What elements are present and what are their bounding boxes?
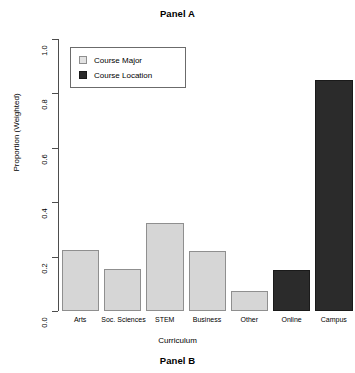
panel-b-caption: Panel B [0,355,355,366]
x-axis-tick-label: Campus [313,316,355,323]
y-axis-tick-label: 0.2 [40,255,49,281]
legend-swatch-icon [79,56,87,64]
y-axis-tick-label: 0.4 [40,201,49,227]
legend-item-course-location: Course Location [79,68,152,82]
x-axis-tick-label: Soc. Sciences [101,316,143,323]
y-axis-tick-label: 0.8 [40,92,49,118]
y-axis-tick [52,311,58,312]
x-axis-tick-label: Arts [59,316,101,323]
y-axis-tick-label: 1.0 [40,38,49,64]
figure-panel-a: Panel A Proportion (Weighted) 0.00.20.40… [0,0,355,373]
page-title: Panel A [0,8,355,19]
bar-business [189,251,226,311]
y-axis-tick [52,202,58,203]
y-axis-tick [52,93,58,94]
legend-item-course-major: Course Major [79,53,142,67]
y-axis-label: Proportion (Weighted) [12,43,21,223]
bar-other [231,291,268,311]
chart-legend: Course Major Course Location [70,47,186,88]
x-axis-tick-label: Online [270,316,312,323]
bar-online [273,270,310,311]
legend-swatch-icon [79,71,87,79]
x-axis-tick-label: Other [228,316,270,323]
legend-label: Course Location [94,71,152,80]
y-axis-tick-label: 0.0 [40,310,49,336]
y-axis-tick [52,39,58,40]
bar-arts [62,250,99,311]
x-axis-tick-label: STEM [144,316,186,323]
legend-label: Course Major [94,56,142,65]
bar-campus [315,80,352,311]
bar-soc-sciences [104,269,141,311]
y-axis-tick [52,257,58,258]
y-axis-tick-label: 0.6 [40,146,49,172]
y-axis-tick [52,148,58,149]
bar-stem [146,223,183,311]
x-axis-label: Curriculum [0,336,355,345]
x-axis-tick-label: Business [186,316,228,323]
